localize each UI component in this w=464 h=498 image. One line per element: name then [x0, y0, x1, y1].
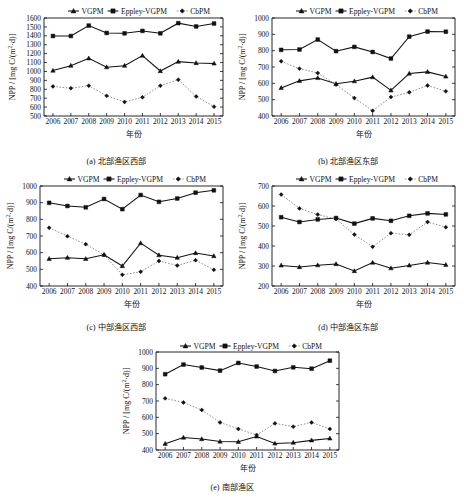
y-axis-title: NPP / [mg C/(m2·d)]: [7, 33, 17, 100]
y-axis-title-suffix: ·d)]: [238, 33, 247, 45]
x-tick-label: 2011: [135, 117, 150, 126]
x-tick-label: 2006: [158, 451, 173, 460]
x-tick-label: 2007: [63, 117, 78, 126]
data-point-diamond: [194, 94, 198, 98]
data-point-square: [47, 201, 51, 205]
y-tick-label: 600: [258, 202, 269, 211]
data-point-diamond: [87, 84, 91, 88]
series-eppley-vgpm: [163, 359, 331, 376]
y-tick-label: 500: [258, 222, 269, 231]
y-axis-title-text: NPP / [mg C/(m2·d)]: [7, 33, 17, 100]
y-tick-label: 900: [142, 364, 153, 373]
legend-label: Eppley-VGPM: [121, 7, 167, 16]
data-point-diamond: [51, 84, 55, 88]
x-tick-label: 2014: [420, 287, 435, 296]
caption-b: (b) 北部渔区东部: [232, 154, 464, 166]
figure-container: 5006007008009001000110012001300140015001…: [0, 0, 464, 498]
series-line: [281, 213, 446, 223]
x-axis-title: 年份: [124, 299, 140, 309]
data-point-square: [407, 214, 411, 218]
data-point-square: [212, 188, 216, 192]
legend-label: VGPM: [78, 175, 100, 184]
y-tick-label: 1200: [26, 49, 41, 58]
series-vgpm: [51, 53, 217, 72]
chart-legend: VGPMEppley-VGPMCbPM: [68, 7, 210, 16]
data-point-square: [194, 191, 198, 195]
panel-c: 4005006007008009001000200620072008200920…: [0, 168, 232, 336]
data-point-square: [352, 222, 356, 226]
data-point-triangle: [87, 56, 91, 60]
y-tick-label: 400: [258, 112, 269, 121]
y-tick-label: 1400: [26, 31, 41, 40]
series-line: [53, 23, 214, 36]
data-point-square: [444, 30, 448, 34]
series-vgpm: [279, 260, 448, 272]
x-tick-label: 2008: [310, 287, 325, 296]
data-point-square: [200, 366, 204, 370]
data-point-diamond: [69, 86, 73, 90]
data-point-triangle: [138, 241, 142, 245]
data-point-diamond: [123, 100, 127, 104]
series-eppley-vgpm: [279, 30, 447, 61]
data-point-triangle: [370, 260, 374, 264]
x-tick-label: 2009: [99, 117, 114, 126]
data-point-diamond: [291, 425, 295, 429]
x-tick-label: 2009: [329, 287, 344, 296]
series-cbpm: [51, 78, 216, 109]
chart-b-svg: 4005006007008009001000200620072008200920…: [232, 0, 464, 150]
data-point-square: [444, 213, 448, 217]
series-vgpm: [279, 70, 448, 92]
x-tick-label: 2006: [274, 287, 289, 296]
legend-item-cbpm: CbPM: [405, 175, 439, 184]
y-tick-label: 1600: [26, 14, 41, 23]
legend-label: Eppley-VGPM: [349, 175, 395, 184]
data-point-square: [176, 21, 180, 25]
x-tick-label: 2012: [268, 451, 283, 460]
y-tick-label: 1000: [138, 348, 153, 357]
data-point-square: [389, 57, 393, 61]
legend-item-eppley-vgpm: Eppley-VGPM: [220, 342, 280, 351]
y-axis-title-prefix: NPP / [mg C/(m: [238, 48, 247, 101]
y-axis-title: NPP / [mg C/(m2·d)]: [237, 202, 247, 269]
data-point-diamond: [407, 233, 411, 237]
data-point-square: [352, 45, 356, 49]
data-point-diamond: [316, 71, 320, 75]
legend-label: Eppley-VGPM: [349, 7, 395, 16]
data-point-diamond: [139, 270, 143, 274]
legend-label: Eppley-VGPM: [233, 342, 279, 351]
caption-e: (e) 南部渔区: [116, 480, 348, 492]
legend-marker-square-icon: [107, 177, 111, 181]
y-axis-title-suffix: ·d)]: [238, 202, 247, 214]
y-tick-label: 1000: [26, 67, 41, 76]
y-axis-title-prefix: NPP / [mg C/(m: [238, 217, 247, 270]
series-vgpm: [47, 241, 216, 268]
data-point-diamond: [157, 259, 161, 263]
data-point-square: [279, 215, 283, 219]
x-tick-label: 2008: [78, 287, 93, 296]
chart-plot-area: 4005006007008009001000200620072008200920…: [254, 14, 455, 127]
x-tick-label: 2013: [171, 117, 186, 126]
data-point-square: [279, 48, 283, 52]
data-point-square: [51, 34, 55, 38]
data-point-square: [316, 218, 320, 222]
x-tick-label: 2010: [347, 287, 362, 296]
y-tick-label: 500: [258, 95, 269, 104]
series-line: [165, 398, 330, 435]
y-axis-title-suffix: ·d)]: [122, 367, 131, 379]
y-tick-label: 1100: [26, 58, 41, 67]
y-tick-label: 400: [258, 242, 269, 251]
legend-item-eppley-vgpm: Eppley-VGPM: [336, 7, 396, 16]
y-tick-label: 700: [258, 182, 269, 191]
y-tick-label: 700: [26, 232, 37, 241]
x-tick-label: 2014: [189, 117, 204, 126]
x-tick-label: 2012: [152, 287, 167, 296]
data-point-square: [298, 220, 302, 224]
data-point-square: [371, 217, 375, 221]
series-line: [281, 61, 446, 110]
series-line: [49, 228, 214, 275]
y-tick-label: 500: [30, 112, 41, 121]
y-axis-title: NPP / [mg C/(m2·d)]: [237, 33, 247, 100]
legend-label: CbPM: [186, 175, 206, 184]
legend-label: VGPM: [310, 7, 332, 16]
y-axis-title-prefix: NPP / [mg C/(m: [8, 48, 17, 101]
